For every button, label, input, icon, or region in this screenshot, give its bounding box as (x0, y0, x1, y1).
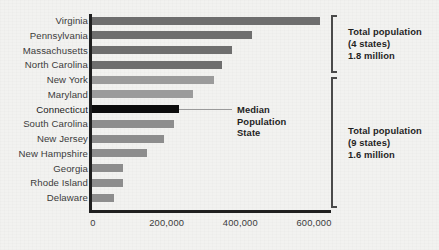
x-tick-400000: 400,000 (223, 218, 258, 228)
median-callout-line-1: Median (237, 104, 286, 116)
bar-delaware (92, 194, 114, 202)
bar-south-carolina (92, 120, 174, 128)
total-population-4-states-annotation: Total population (4 states) 1.8 million (348, 26, 422, 61)
category-label-massachusetts: Massachusetts (23, 46, 88, 56)
group-bottom-line-1: Total population (348, 125, 422, 137)
bar-new-hampshire (92, 149, 147, 157)
category-label-north-carolina: North Carolina (25, 60, 88, 70)
category-label-new-hampshire: New Hampshire (18, 149, 88, 159)
bar-massachusetts (92, 46, 232, 54)
group-top-line-2: (4 states) (348, 38, 422, 50)
median-callout-line-2: Population (237, 116, 286, 128)
bar-rhode-island (92, 179, 123, 187)
category-label-new-york: New York (47, 75, 88, 85)
bar-virginia (92, 17, 320, 25)
bar-new-york (92, 76, 214, 84)
category-label-delaware: Delaware (47, 193, 88, 203)
category-label-new-jersey: New Jersey (37, 134, 88, 144)
population-bar-chart: VirginiaPennsylvaniaMassachusettsNorth C… (0, 0, 439, 250)
bar-georgia (92, 164, 123, 172)
median-population-state-annotation: Median Population State (237, 104, 286, 139)
bar-new-jersey (92, 135, 164, 143)
bar-maryland (92, 90, 193, 98)
x-tick-600000: 600,000 (296, 218, 331, 228)
median-leader-line (179, 109, 232, 110)
category-label-georgia: Georgia (53, 164, 88, 174)
bracket-bottom-group (331, 77, 337, 209)
category-label-pennsylvania: Pennsylvania (30, 31, 88, 41)
category-label-rhode-island: Rhode Island (30, 178, 88, 188)
x-axis-line (89, 210, 331, 213)
category-label-virginia: Virginia (55, 16, 88, 26)
group-top-line-3: 1.8 million (348, 50, 422, 62)
category-label-maryland: Maryland (48, 90, 88, 100)
x-tick-0: 0 (90, 218, 95, 228)
group-bottom-line-3: 1.6 million (348, 149, 422, 161)
x-tick-200000: 200,000 (149, 218, 184, 228)
median-callout-line-3: State (237, 127, 286, 139)
category-label-connecticut: Connecticut (36, 105, 88, 115)
group-bottom-line-2: (9 states) (348, 137, 422, 149)
group-top-line-1: Total population (348, 26, 422, 38)
bar-connecticut (92, 105, 179, 113)
bar-north-carolina (92, 61, 222, 69)
category-label-south-carolina: South Carolina (23, 119, 88, 129)
total-population-9-states-annotation: Total population (9 states) 1.6 million (348, 125, 422, 160)
bracket-top-group (331, 15, 337, 73)
bar-pennsylvania (92, 31, 252, 39)
